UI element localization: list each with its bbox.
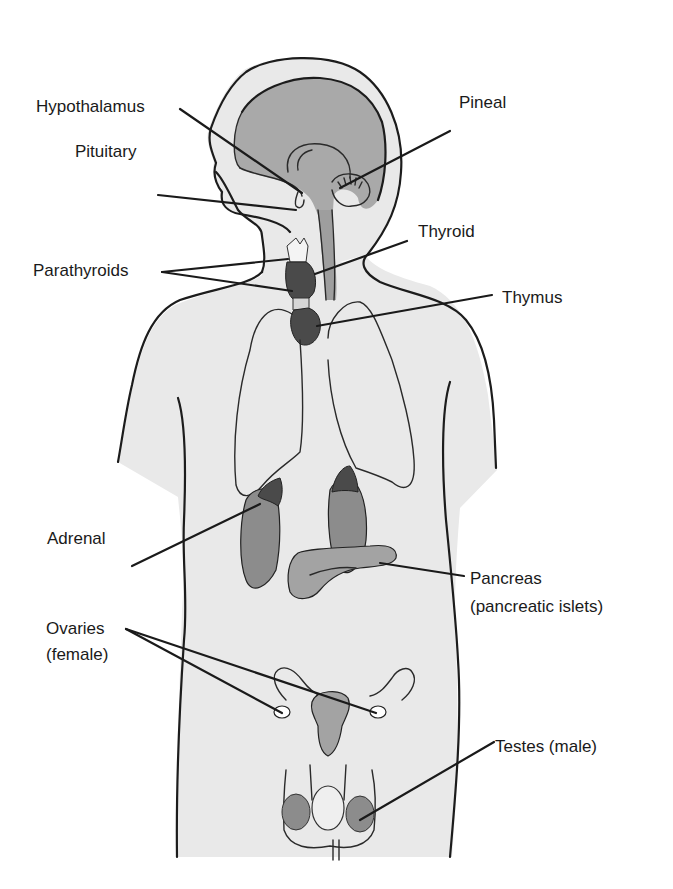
label-thyroid: Thyroid <box>418 222 475 241</box>
label-pancreas: Pancreas <box>470 569 542 588</box>
label-pancreas-sub: (pancreatic islets) <box>470 597 603 616</box>
label-pituitary: Pituitary <box>75 142 137 161</box>
cropped-caption <box>0 874 673 889</box>
label-ovaries: Ovaries <box>46 619 105 638</box>
label-parathyroids: Parathyroids <box>33 261 128 280</box>
label-adrenal: Adrenal <box>47 529 106 548</box>
label-ovaries-sub: (female) <box>46 645 108 664</box>
label-pineal: Pineal <box>459 93 506 112</box>
label-thymus: Thymus <box>502 288 562 307</box>
label-testes: Testes (male) <box>495 737 597 756</box>
endocrine-system-diagram: Hypothalamus Pituitary Pineal Thyroid Pa… <box>0 0 673 889</box>
label-hypothalamus: Hypothalamus <box>36 97 145 116</box>
